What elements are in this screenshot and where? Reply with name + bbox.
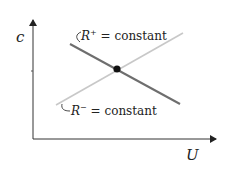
characteristics-diagram: c U R+ = constant R− = constant bbox=[0, 0, 229, 170]
r-minus-label: R− = constant bbox=[70, 103, 157, 118]
r-plus-label: R+ = constant bbox=[80, 28, 167, 43]
r-plus-line bbox=[70, 44, 180, 104]
y-axis-label: c bbox=[16, 28, 25, 46]
intersection-point bbox=[113, 65, 120, 72]
r-minus-leader-icon bbox=[62, 104, 70, 111]
x-axis-label: U bbox=[186, 146, 200, 164]
